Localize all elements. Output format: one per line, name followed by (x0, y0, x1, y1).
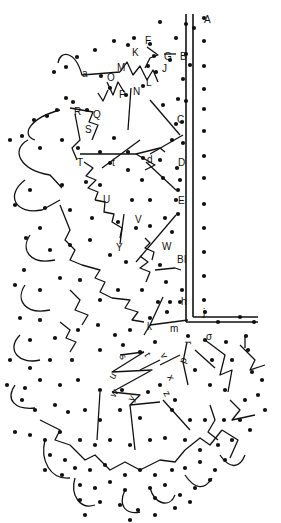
thread-path (150, 135, 183, 154)
pricking-hole (184, 99, 188, 103)
pricking-hole (174, 36, 178, 40)
pricking-hole (168, 300, 172, 304)
point-label: Y (116, 242, 123, 253)
thread-path (60, 205, 82, 265)
thread-path (28, 110, 60, 140)
diagram-canvas: AFGBKJMOLNPaRQSCTtdDUEVYWBIhjkmrσpstvuxw… (0, 0, 281, 523)
thread-path (222, 430, 238, 458)
pricking-hole (98, 348, 102, 352)
pricking-hole (33, 408, 37, 412)
pricking-hole (93, 443, 97, 447)
pricking-hole (178, 178, 182, 182)
point-label-rotated: r (183, 341, 194, 345)
pricking-hole (202, 39, 206, 43)
pricking-hole (53, 336, 57, 340)
pricking-hole (216, 443, 220, 447)
point-label: O (107, 72, 115, 83)
pricking-hole (78, 438, 82, 442)
point-label: N (133, 86, 140, 97)
pricking-hole (244, 334, 248, 338)
pricking-hole (121, 343, 125, 347)
pricking-hole (71, 100, 75, 104)
pricking-hole (116, 220, 120, 224)
pricking-hole (52, 70, 56, 74)
pricking-hole (176, 212, 180, 216)
point-label-rotated: s (117, 352, 129, 362)
thread-path (185, 430, 222, 450)
thread-path (150, 488, 175, 503)
pricking-hole (108, 86, 112, 90)
thread-path (120, 214, 124, 244)
pricking-hole (153, 473, 157, 477)
pricking-hole (85, 108, 89, 112)
pricking-hole (238, 418, 242, 422)
thread-path (97, 392, 100, 440)
pricking-hole (181, 141, 185, 145)
pricking-hole (188, 63, 192, 67)
pricking-hole (138, 468, 142, 472)
thread-path (74, 478, 95, 506)
pricking-hole (76, 328, 80, 332)
thread-path (230, 400, 255, 420)
point-label: F (145, 35, 151, 46)
pricking-hole (170, 138, 174, 142)
pricking-hole (128, 328, 132, 332)
pricking-hole (123, 473, 127, 477)
point-label: J (162, 63, 167, 74)
point-label: M (117, 62, 125, 73)
point-label: V (135, 214, 142, 225)
pricking-hole (93, 486, 97, 490)
thread-path (146, 162, 176, 190)
pricking-hole (170, 230, 174, 234)
thread-path (21, 285, 50, 311)
pricking-hole (202, 154, 206, 158)
pricking-hole (45, 114, 49, 118)
thread-path (150, 320, 188, 325)
pricking-hole (28, 433, 32, 437)
pricking-hole (202, 176, 206, 180)
pricking-hole (208, 478, 212, 482)
pricking-hole (43, 438, 47, 442)
pricking-hole (183, 438, 187, 442)
pricking-hole (113, 333, 117, 337)
thread-path (140, 360, 160, 370)
point-label: j (202, 307, 205, 318)
pricking-hole (148, 224, 152, 228)
pricking-hole (75, 55, 79, 59)
pricking-hole (126, 43, 130, 47)
pricking-hole (203, 418, 207, 422)
pricking-hole (64, 96, 68, 100)
thread-path (136, 215, 176, 262)
pricking-hole (60, 183, 64, 187)
thread-path (95, 200, 122, 238)
pricking-hole (154, 70, 158, 74)
thread-path (112, 298, 144, 322)
pricking-hole (202, 64, 206, 68)
point-label: R (74, 106, 81, 117)
pricking-hole (138, 350, 142, 354)
point-label-rotated: v (158, 351, 170, 361)
pricking-hole (55, 108, 59, 112)
pricking-hole (76, 378, 80, 382)
pricking-hole (188, 418, 192, 422)
pricking-hole (148, 486, 152, 490)
pricking-hole (68, 208, 72, 212)
thread-path (185, 475, 212, 487)
pricking-hole (202, 107, 206, 111)
pricking-hole (263, 408, 267, 412)
point-label: d (147, 154, 153, 165)
pricking-hole (170, 408, 174, 412)
pricking-hole (38, 378, 42, 382)
pricking-hole (148, 438, 152, 442)
pricking-hole (198, 460, 202, 464)
pricking-hole (184, 22, 188, 26)
pricking-hole (176, 97, 180, 101)
pricking-hole (148, 316, 152, 320)
pricking-hole (123, 488, 127, 492)
pricking-hole (128, 518, 132, 522)
pricking-hole (13, 203, 17, 207)
pricking-hole (128, 443, 132, 447)
thread-path (240, 345, 265, 370)
pricking-hole (5, 383, 9, 387)
thread-path (183, 362, 188, 385)
